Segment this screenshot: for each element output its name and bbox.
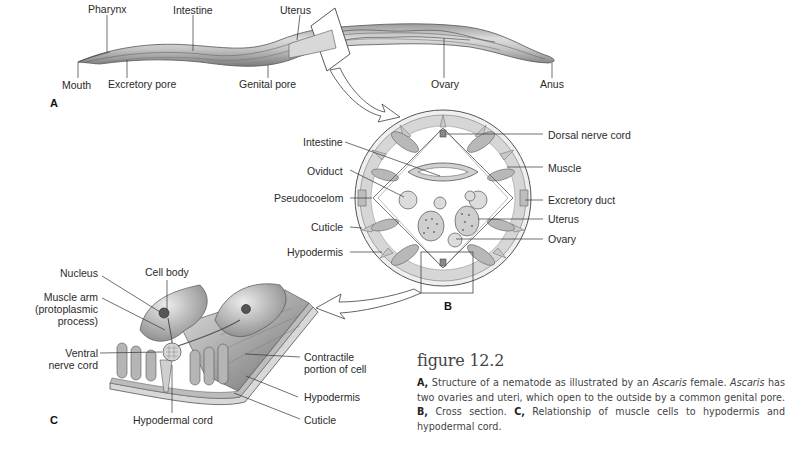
- label-b-ovary: Ovary: [548, 233, 576, 245]
- label-b-oviduct: Oviduct: [307, 165, 343, 177]
- label-c-ventral-line1: Ventral: [65, 347, 98, 359]
- label-c-ventral-line2: nerve cord: [48, 359, 98, 371]
- caption-a-text-1: Structure of a nematode as illustrated b…: [428, 377, 652, 388]
- label-mouth: Mouth: [62, 79, 91, 91]
- label-pharynx: Pharynx: [88, 3, 127, 15]
- label-c-contractile-line1: Contractile: [304, 351, 354, 363]
- label-uterus: Uterus: [280, 4, 311, 16]
- label-b-intestine: Intestine: [303, 136, 343, 148]
- panel-c-letter: C: [50, 414, 58, 426]
- caption-a-text-2: female.: [687, 377, 730, 388]
- panel-a-letter: A: [50, 97, 58, 109]
- caption-key-a: A,: [417, 377, 428, 388]
- label-c-cuticle: Cuticle: [304, 414, 336, 426]
- label-c-ventral-nerve-cord: Ventral nerve cord: [40, 347, 98, 371]
- label-c-muscle-arm-line1: Muscle arm: [44, 291, 98, 303]
- label-b-excretory-duct: Excretory duct: [548, 194, 615, 206]
- caption-text: A, Structure of a nematode as illustrate…: [417, 376, 785, 434]
- label-c-nucleus: Nucleus: [60, 267, 98, 279]
- label-b-dorsal-nerve-cord: Dorsal nerve cord: [548, 129, 631, 141]
- label-c-contractile-line2: portion of cell: [304, 363, 366, 375]
- label-excretory-pore: Excretory pore: [108, 78, 176, 90]
- caption-key-b: B,: [417, 406, 428, 417]
- label-ovary: Ovary: [431, 78, 459, 90]
- label-c-hypodermis: Hypodermis: [304, 391, 360, 403]
- label-b-cuticle: Cuticle: [311, 221, 343, 233]
- label-c-muscle-arm-line2: (protoplasmic: [35, 303, 98, 315]
- panel-b-letter: B: [444, 300, 452, 312]
- caption-key-c: C,: [514, 406, 525, 417]
- label-b-hypodermis: Hypodermis: [287, 246, 343, 258]
- label-intestine: Intestine: [173, 4, 213, 16]
- cross-section: [355, 110, 531, 293]
- arrow-b-to-c-icon: [316, 289, 421, 319]
- label-c-muscle-arm-line3: process): [58, 315, 98, 327]
- label-c-hypodermal-cord: Hypodermal cord: [133, 414, 213, 426]
- label-c-cell-body: Cell body: [145, 266, 189, 278]
- caption-genus-2: Ascaris: [730, 377, 764, 388]
- label-genital-pore: Genital pore: [239, 78, 296, 90]
- arrow-a-to-b-icon: [330, 68, 400, 122]
- label-c-muscle-arm: Muscle arm (protoplasmic process): [30, 291, 98, 327]
- muscle-cell-block: [110, 284, 318, 405]
- figure-caption: figure 12.2 A, Structure of a nematode a…: [417, 351, 785, 434]
- label-b-muscle: Muscle: [548, 162, 581, 174]
- label-anus: Anus: [540, 78, 564, 90]
- caption-genus: Ascaris: [652, 377, 686, 388]
- label-b-uterus: Uterus: [548, 213, 579, 225]
- caption-b-text: Cross section.: [428, 406, 514, 417]
- label-c-contractile: Contractile portion of cell: [304, 351, 366, 375]
- figure-title: figure 12.2: [417, 351, 785, 370]
- label-b-pseudocoelom: Pseudocoelom: [274, 192, 343, 204]
